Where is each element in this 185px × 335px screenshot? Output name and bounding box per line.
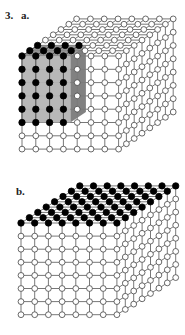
filled-site <box>142 193 148 199</box>
empty-site <box>173 209 179 215</box>
filled-site <box>60 79 66 85</box>
filled-site <box>33 119 39 125</box>
empty-site <box>131 288 137 294</box>
filled-site <box>62 209 68 215</box>
filled-site <box>60 193 66 199</box>
empty-site <box>88 93 94 99</box>
empty-site <box>163 35 169 41</box>
empty-site <box>124 88 130 94</box>
filled-site <box>59 220 65 226</box>
empty-site <box>139 130 145 136</box>
empty-site <box>139 77 145 83</box>
empty-site <box>156 207 162 213</box>
empty-site <box>170 69 176 75</box>
empty-site <box>110 48 116 54</box>
empty-site <box>156 220 162 226</box>
filled-site <box>33 66 39 72</box>
empty-site <box>163 101 169 107</box>
empty-site <box>94 21 100 27</box>
filled-site <box>108 215 114 221</box>
empty-site <box>163 75 169 81</box>
empty-site <box>122 307 128 313</box>
filled-site <box>164 188 170 194</box>
filled-site <box>27 48 33 54</box>
filled-site <box>60 93 66 99</box>
empty-site <box>131 82 137 88</box>
filled-site <box>122 215 128 221</box>
empty-site <box>56 37 62 43</box>
empty-site <box>131 56 137 62</box>
filled-site <box>120 199 126 205</box>
empty-site <box>112 37 118 43</box>
empty-site <box>164 215 170 221</box>
empty-site <box>148 212 154 218</box>
empty-site <box>73 273 79 279</box>
empty-site <box>118 43 124 49</box>
filled-site <box>19 79 25 85</box>
empty-site <box>164 254 170 260</box>
empty-site <box>100 273 106 279</box>
empty-site <box>163 88 169 94</box>
empty-site <box>46 299 52 305</box>
empty-site <box>101 16 107 22</box>
empty-site <box>164 280 170 286</box>
empty-site <box>139 64 145 70</box>
empty-site <box>170 83 176 89</box>
filled-site <box>137 188 143 194</box>
filled-site <box>18 220 24 226</box>
filled-site <box>156 193 162 199</box>
empty-site <box>124 114 130 120</box>
empty-site <box>114 312 120 318</box>
empty-site <box>148 238 154 244</box>
empty-site <box>155 40 161 46</box>
filled-site <box>79 199 85 205</box>
empty-site <box>87 299 93 305</box>
filled-site <box>95 215 101 221</box>
filled-site <box>106 199 112 205</box>
filled-site <box>93 199 99 205</box>
filled-site <box>51 199 57 205</box>
cube-lattice-b <box>18 183 179 318</box>
filled-site <box>150 188 156 194</box>
empty-site <box>155 120 161 126</box>
filled-site <box>48 42 54 48</box>
empty-site <box>102 93 108 99</box>
empty-site <box>88 133 94 139</box>
filled-site <box>84 204 90 210</box>
empty-site <box>46 286 52 292</box>
empty-site <box>47 133 53 139</box>
empty-site <box>116 146 122 152</box>
empty-site <box>61 146 67 152</box>
filled-site <box>40 215 46 221</box>
filled-site <box>34 42 40 48</box>
empty-site <box>173 235 179 241</box>
empty-site <box>131 109 137 115</box>
empty-site <box>33 133 39 139</box>
empty-site <box>90 43 96 49</box>
empty-site <box>147 112 153 118</box>
filled-site <box>65 199 71 205</box>
filled-site <box>62 42 68 48</box>
filled-site <box>43 204 49 210</box>
filled-site <box>40 48 46 54</box>
empty-site <box>73 246 79 252</box>
empty-site <box>47 146 53 152</box>
empty-site <box>32 246 38 252</box>
filled-site <box>87 193 93 199</box>
empty-site <box>131 262 137 268</box>
empty-site <box>173 262 179 268</box>
empty-site <box>102 66 108 72</box>
filled-site <box>60 119 66 125</box>
empty-site <box>59 259 65 265</box>
empty-site <box>131 249 137 255</box>
empty-site <box>116 93 122 99</box>
empty-site <box>170 16 176 22</box>
empty-site <box>156 259 162 265</box>
filled-site <box>104 183 110 189</box>
empty-site <box>119 32 125 38</box>
empty-site <box>80 21 86 27</box>
empty-site <box>88 53 94 59</box>
empty-site <box>116 133 122 139</box>
filled-site <box>33 93 39 99</box>
filled-site <box>100 220 106 226</box>
